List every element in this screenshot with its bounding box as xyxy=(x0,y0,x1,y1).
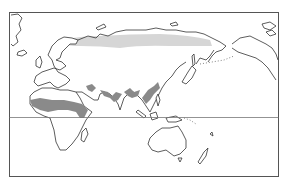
world-map xyxy=(0,0,288,179)
landmass-sakhalin xyxy=(192,54,195,66)
landmass-borneo xyxy=(150,112,158,120)
